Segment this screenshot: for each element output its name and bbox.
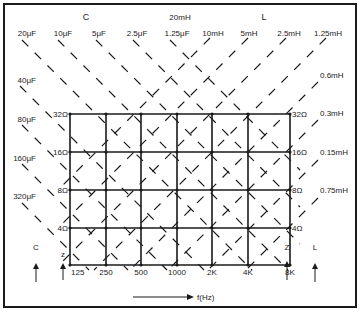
inductance-line — [62, 38, 248, 224]
inductance-line — [246, 198, 318, 270]
grid-node — [210, 112, 213, 115]
grid-node — [139, 226, 142, 229]
capacitance-label: 5μF — [92, 29, 106, 38]
capacitance-label: 160μF — [13, 154, 36, 163]
grid-node — [139, 150, 142, 153]
frequency-tick-label: 250 — [99, 268, 113, 277]
capacitance-line — [22, 164, 128, 270]
z-left-label: z — [61, 250, 65, 259]
frequency-axis-label: f(Hz) — [197, 293, 215, 302]
grid-node — [175, 150, 178, 153]
impedance-tick-label-right: 16Ω — [292, 148, 307, 157]
grid-node — [139, 263, 142, 266]
impedance-tick-label-right: 32Ω — [292, 110, 307, 119]
inductance-label: 0.6mH — [320, 71, 344, 80]
capacitance-label: 10μF — [54, 29, 73, 38]
capacitance-label: 320μF — [13, 192, 36, 201]
grid-node — [175, 263, 178, 266]
c-arrow-label: C — [33, 243, 39, 252]
inductance-label: 0.3mH — [320, 109, 344, 118]
capacitance-label: 20μF — [18, 29, 37, 38]
impedance-tick-label-right: 8Ω — [292, 186, 302, 195]
inductance-label: 0.15mH — [320, 148, 348, 157]
inductance-label: 0.75mH — [320, 186, 348, 195]
impedance-tick-label-left: 32Ω — [53, 110, 68, 119]
grid-node — [139, 112, 142, 115]
grid-node — [210, 188, 213, 191]
inductance-label: 5mH — [241, 29, 258, 38]
grid-node — [104, 112, 107, 115]
capacitance-line — [22, 203, 89, 270]
grid-node — [68, 226, 71, 229]
frequency-tick-label: 2K — [207, 268, 217, 277]
grid-node — [68, 263, 71, 266]
frequency-tick-label: 1000 — [168, 268, 186, 277]
capacitance-label: 1.25μF — [164, 29, 189, 38]
grid-node — [210, 226, 213, 229]
inductance-center-label: 20mH — [169, 13, 191, 22]
capacitance-line — [133, 40, 300, 207]
c-arrow-icon — [33, 263, 39, 282]
grid-node — [175, 112, 178, 115]
grid-node — [175, 226, 178, 229]
impedance-tick-label-left: 16Ω — [53, 148, 68, 157]
grid-node — [246, 263, 249, 266]
grid-node — [246, 226, 249, 229]
frequency-tick-label: 125 — [71, 268, 85, 277]
z-left-arrow-icon — [60, 263, 66, 280]
grid-node — [68, 112, 71, 115]
inductance-line — [168, 120, 318, 270]
l-arrow-icon — [312, 263, 318, 282]
grid-node — [246, 112, 249, 115]
grid-node — [210, 263, 213, 266]
inductance-header: L — [261, 12, 266, 22]
inductance-label: 2.5mH — [277, 29, 301, 38]
grid-node — [104, 150, 107, 153]
impedance-tick-label-right: 4Ω — [292, 224, 302, 233]
grid-node — [175, 188, 178, 191]
capacitance-label: 40μF — [18, 76, 37, 85]
z-right-label: Z — [285, 243, 290, 252]
frequency-tick-label: 4K — [243, 268, 253, 277]
capacitance-label: 80μF — [18, 115, 37, 124]
grid-node — [246, 188, 249, 191]
l-arrow-label: L — [313, 243, 318, 252]
grid-node — [68, 150, 71, 153]
grid-node — [210, 150, 213, 153]
impedance-tick-label-left: 8Ω — [58, 186, 68, 195]
frequency-arrow-icon — [133, 294, 194, 300]
grid-node — [68, 188, 71, 191]
reactance-chart: C 20mH L 12525050010002K4K8K4Ω4Ω8Ω8Ω16Ω1… — [0, 0, 361, 315]
grid-node — [104, 188, 107, 191]
inductance-line — [62, 38, 210, 186]
inductance-label: 1.25mH — [314, 29, 342, 38]
grid-node — [104, 226, 107, 229]
capacitance-header: C — [83, 12, 90, 22]
capacitance-label: 2.5μF — [127, 29, 148, 38]
capacitance-line — [96, 40, 300, 244]
capacitance-line — [170, 40, 300, 170]
impedance-tick-label-left: 4Ω — [58, 224, 68, 233]
frequency-tick-label: 500 — [134, 268, 148, 277]
grid-node — [246, 150, 249, 153]
capacitance-line — [22, 125, 167, 270]
grid-node — [139, 188, 142, 191]
grid-node — [104, 263, 107, 266]
inductance-label: 10mH — [202, 29, 224, 38]
